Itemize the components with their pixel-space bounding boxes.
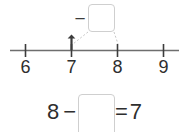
worksheet-problem: − 6 7 8 9 8 − = 7 bbox=[0, 0, 189, 132]
annotation-minus-operator: − bbox=[73, 9, 87, 29]
equation-right-operand: 7 bbox=[128, 93, 142, 131]
tick-label-9: 9 bbox=[152, 56, 176, 78]
tick-label-7: 7 bbox=[60, 56, 84, 78]
equation-equals-sign: = bbox=[115, 93, 128, 131]
equation-minus-operator: − bbox=[59, 93, 78, 131]
equation-answer-box[interactable] bbox=[78, 94, 115, 132]
jump-answer-box[interactable] bbox=[88, 4, 115, 32]
equation-left-operand: 8 bbox=[47, 93, 59, 131]
jump-annotation: − bbox=[0, 0, 189, 46]
equation: 8 − = 7 bbox=[0, 93, 189, 132]
tick-label-8: 8 bbox=[106, 56, 130, 78]
tick-label-6: 6 bbox=[14, 56, 38, 78]
tick-label-group: 6 7 8 9 bbox=[0, 56, 189, 80]
